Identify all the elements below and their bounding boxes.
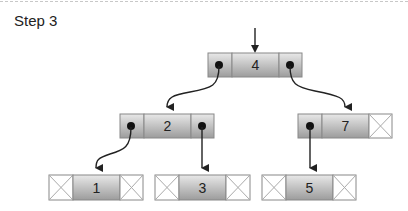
root-pointer-arrow <box>251 28 259 53</box>
node-value: 2 <box>164 118 172 134</box>
node-value: 4 <box>252 57 260 73</box>
tree-node-5: 5 <box>262 175 356 200</box>
tree-node-7: 7 <box>298 114 392 138</box>
tree-node-4: 4 <box>208 53 302 77</box>
node-value: 1 <box>93 180 101 196</box>
tree-diagram: 4 2 7 1 3 <box>0 0 408 211</box>
node-value: 7 <box>342 118 350 134</box>
tree-node-2: 2 <box>120 114 214 138</box>
node-value: 3 <box>199 180 207 196</box>
node-value: 5 <box>306 180 314 196</box>
tree-node-1: 1 <box>49 175 143 200</box>
tree-node-3: 3 <box>155 175 250 200</box>
